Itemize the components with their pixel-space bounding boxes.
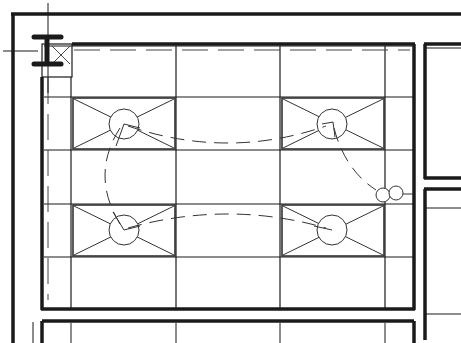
ceiling-grid: [44, 46, 413, 308]
switch-circle-1: [376, 188, 390, 202]
switch-circle-2: [389, 186, 403, 200]
switch-symbol: [376, 186, 413, 202]
room-walls: [41, 44, 415, 310]
light-fixture-1: [73, 98, 175, 149]
light-fixture-4: [282, 205, 384, 256]
right-rooms: [424, 44, 461, 340]
ceiling-plan-drawing: [0, 0, 461, 343]
wire-fixture2-to-switch: [334, 128, 376, 190]
light-fixture-3: [73, 205, 175, 256]
wire-fixture3-to-fixture4: [128, 214, 326, 228]
dashed-reference-lines: [48, 50, 410, 300]
outer-walls: [11, 14, 461, 343]
circuit-wiring: [105, 126, 376, 228]
fixture-lamp-circle: [317, 109, 347, 139]
bottom-room: [33, 321, 414, 343]
